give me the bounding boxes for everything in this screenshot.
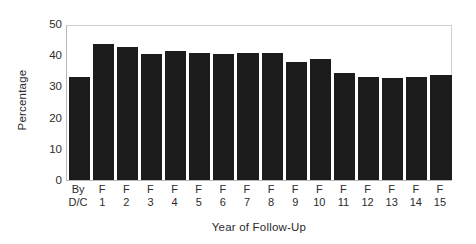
bar [237, 53, 258, 180]
x-tick-label-line1: F [424, 183, 456, 196]
y-tick-label: 10 [32, 144, 62, 156]
bar [141, 54, 162, 180]
x-axis-title: Year of Follow-Up [66, 221, 452, 233]
bar-series [67, 26, 451, 180]
y-tick-label: 30 [32, 81, 62, 93]
bar-chart-figure: Percentage 01020304050 ByD/CF1F2F3F4F5F6… [0, 0, 476, 244]
bar [93, 44, 114, 180]
bar [286, 62, 307, 180]
plot-area [66, 25, 452, 181]
bar [310, 59, 331, 180]
bar [189, 53, 210, 180]
x-tick-label-line2: 15 [424, 196, 456, 209]
bar [262, 53, 283, 180]
x-tick-label: F15 [424, 183, 456, 208]
bar [334, 73, 355, 180]
bar [406, 77, 427, 180]
y-axis-title: Percentage [16, 45, 28, 155]
bar [117, 47, 138, 180]
bar [213, 54, 234, 180]
y-tick-label: 40 [32, 50, 62, 62]
bar [165, 51, 186, 180]
y-tick-label: 20 [32, 113, 62, 125]
bar [69, 77, 90, 180]
y-tick-label: 50 [32, 19, 62, 31]
bar [358, 77, 379, 180]
y-axis-tick-labels: 01020304050 [32, 25, 62, 181]
y-tick-label: 0 [32, 175, 62, 187]
x-axis-tick-labels: ByD/CF1F2F3F4F5F6F7F8F9F10F11F12F13F14F1… [66, 183, 452, 213]
bar [430, 75, 451, 180]
bar [382, 78, 403, 180]
